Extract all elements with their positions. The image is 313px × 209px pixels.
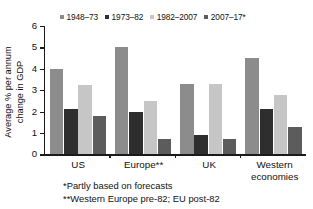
bar — [64, 109, 78, 154]
bar — [180, 84, 194, 155]
bar — [50, 69, 64, 155]
y-axis-tick-label: 3 — [32, 84, 37, 96]
y-axis-title: Average % per annum change in GDP — [3, 46, 26, 137]
bar — [260, 109, 274, 154]
bar — [144, 101, 158, 155]
legend-entry: 1948–73 — [60, 13, 98, 22]
y-axis-title-line1: Average % per annum — [3, 46, 13, 137]
y-axis-title-container: Average % per annum change in GDP — [2, 28, 26, 156]
x-axis-group-tick — [175, 154, 176, 158]
legend-label: 2007–17* — [211, 13, 246, 22]
footnote-line-2: **Western Europe pre-82; EU post-82 — [63, 193, 220, 206]
legend-swatch-icon — [105, 15, 109, 19]
y-axis-tick-label: 4 — [32, 63, 37, 75]
x-axis-label: US — [45, 159, 111, 182]
bar — [194, 135, 208, 154]
y-axis-tick: 5 — [40, 47, 45, 48]
y-axis-tick: 4 — [40, 69, 45, 70]
y-axis-tick: 0 — [40, 154, 45, 155]
bar — [209, 84, 223, 155]
bar — [158, 139, 172, 154]
bar-group — [176, 26, 241, 154]
legend-label: 1982–2007 — [157, 13, 198, 22]
legend-entry: 1973–82 — [105, 13, 143, 22]
x-axis-group-tick — [240, 154, 241, 158]
y-axis-tick: 3 — [40, 90, 45, 91]
x-axis-label: UK — [176, 159, 242, 182]
legend-label: 1948–73 — [67, 13, 99, 22]
bar — [129, 112, 143, 155]
legend-entry: 2007–17* — [204, 13, 245, 22]
legend-label: 1973–82 — [112, 13, 144, 22]
bar-group — [241, 26, 306, 154]
y-axis-tick: 1 — [40, 133, 45, 134]
legend-entry: 1982–2007 — [150, 13, 197, 22]
footnote-line-1: *Partly based on forecasts — [63, 180, 220, 193]
bar — [93, 116, 107, 155]
y-axis-tick-label: 6 — [32, 20, 37, 32]
bar — [115, 47, 129, 154]
legend-swatch-icon — [150, 15, 154, 19]
y-axis-tick-label: 1 — [32, 127, 37, 139]
bar — [288, 127, 302, 155]
y-axis-tick: 6 — [40, 26, 45, 27]
bar-group — [45, 26, 110, 154]
x-axis-label-line1: Western — [256, 159, 292, 170]
bar — [274, 95, 288, 155]
chart-footnotes: *Partly based on forecasts **Western Eur… — [63, 180, 220, 205]
y-axis-title-line2: change in GDP — [14, 46, 26, 137]
y-axis-tick-label: 2 — [32, 106, 37, 118]
x-axis-label-line1: UK — [202, 159, 216, 170]
bar-groups — [45, 26, 306, 154]
legend-swatch-icon — [204, 15, 208, 19]
x-axis-group-tick — [109, 154, 110, 158]
chart-legend: 1948–73 1973–82 1982–2007 2007–17* — [60, 11, 246, 23]
x-axis-label: Europe** — [111, 159, 177, 182]
y-axis-tick-label: 5 — [32, 41, 37, 53]
bar-chart-figure: 1948–73 1973–82 1982–2007 2007–17* Avera… — [0, 0, 313, 209]
y-axis-tick: 2 — [40, 112, 45, 113]
x-axis-label: Westerneconomies — [242, 159, 308, 182]
x-axis-label-line2: economies — [242, 171, 308, 183]
bar — [78, 85, 92, 155]
bar — [245, 58, 259, 154]
plot-area: 0123456 — [44, 26, 306, 156]
bar-group — [111, 26, 176, 154]
y-axis-tick-label: 0 — [32, 148, 37, 160]
bar — [223, 139, 237, 154]
x-axis-label-line1: Europe** — [124, 159, 163, 170]
legend-swatch-icon — [60, 15, 64, 19]
x-axis-label-line1: US — [71, 159, 85, 170]
x-axis-labels: USEurope**UKWesterneconomies — [45, 159, 307, 182]
